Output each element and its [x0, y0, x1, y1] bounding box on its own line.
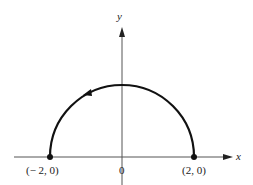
- point-right-label: (2, 0): [182, 164, 206, 177]
- x-axis-label: x: [235, 150, 241, 162]
- y-axis-arrow-icon: [119, 27, 125, 37]
- x-axis-arrow-icon: [223, 154, 233, 160]
- point-right: [191, 154, 197, 160]
- point-left-label: (− 2, 0): [26, 164, 59, 177]
- semicircle-diagram: y x 0 (− 2, 0) (2, 0): [0, 0, 253, 185]
- origin-label: 0: [119, 164, 125, 176]
- y-axis-label: y: [116, 10, 122, 22]
- direction-arrow-icon: [83, 89, 92, 96]
- point-left: [47, 154, 53, 160]
